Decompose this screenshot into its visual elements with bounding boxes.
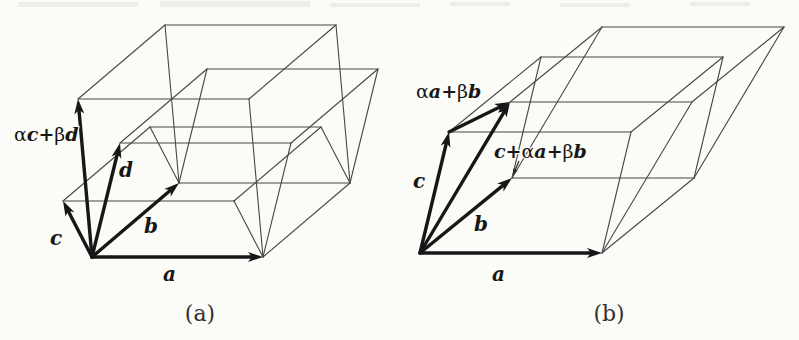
- wireframe-edge: [78, 25, 165, 99]
- scan-artifact: [690, 2, 750, 6]
- floating-label-0: c+αa+βb: [494, 140, 587, 162]
- vector-label-b: b: [144, 214, 158, 238]
- caption-b: (b): [593, 301, 624, 326]
- wireframe-edge: [692, 27, 784, 102]
- wireframe-edge: [602, 178, 694, 253]
- vector-arrow-shaft-d: [92, 153, 117, 257]
- caption-a: (a): [185, 301, 215, 326]
- wireframe-edge: [234, 127, 321, 201]
- wireframe-edge: [631, 57, 723, 132]
- wireframe-edge: [249, 25, 336, 99]
- wireframe-edge: [350, 69, 378, 183]
- diagram-stage: abcdαc+βd αa+βbabcc+αa+βb (a) (b): [0, 0, 799, 340]
- vector-parallelepiped-diagram: abcdαc+βd αa+βbabcc+αa+βb (a) (b): [0, 0, 799, 340]
- vector-arrow-shaft-b: [92, 190, 171, 257]
- figure-b-parallelepipeds: αa+βbabcc+αa+βb: [413, 27, 784, 286]
- wireframe-edge: [510, 27, 602, 102]
- vector-label-c: c: [413, 169, 425, 193]
- wireframe-edge: [179, 69, 207, 183]
- vector-label-a: a: [492, 262, 505, 286]
- wireframe-edge: [263, 183, 350, 257]
- figure-a-parallelepipeds: abcdαc+βd: [14, 25, 378, 286]
- wireframe-edge: [120, 69, 207, 143]
- wireframe-edge: [263, 143, 291, 257]
- vector-label-a: a: [163, 262, 176, 286]
- vector-label-b: b: [474, 212, 488, 236]
- wireframe-edge: [694, 57, 723, 178]
- wireframe-edge: [291, 69, 378, 143]
- wireframe-edge: [602, 132, 631, 253]
- vector-label-c-w: αa+βb: [416, 80, 481, 102]
- scan-artifact: [18, 2, 138, 7]
- scan-artifact: [160, 1, 310, 7]
- vector-label-d: d: [119, 158, 133, 182]
- scan-artifact: [450, 2, 510, 6]
- scan-artifact: [560, 3, 630, 7]
- vector-label-c: c: [50, 226, 62, 250]
- vector-label-v: αc+βd: [14, 123, 79, 145]
- wireframe-edge: [694, 27, 784, 178]
- scan-artifact: [330, 3, 420, 7]
